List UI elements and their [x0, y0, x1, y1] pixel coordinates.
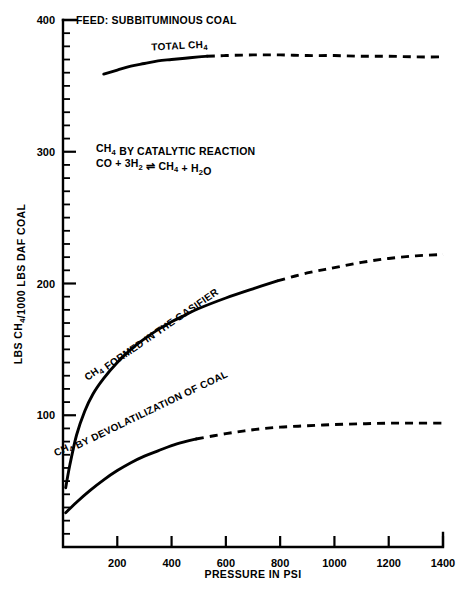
data-curves [66, 55, 443, 513]
curve-solid-3 [66, 439, 196, 513]
curve-labels: TOTAL CH4CH4 FORMED IN THE GASIFIERCH4 B… [52, 38, 229, 460]
catalytic-reaction-note-line2: CO + 3H2 ⇌ CH4 + H2O [96, 157, 212, 177]
x-tick-label: 400 [162, 557, 180, 569]
catalytic-reaction-note-line1: CH4 BY CATALYTIC REACTION [96, 142, 255, 157]
curve-label-3: CH4 BY DEVOLATILIZATION OF COAL [52, 366, 229, 461]
x-axis-title: PRESSURE IN PSI [204, 568, 301, 580]
y-axis-title: LBS CH4/1000 LBS DAF COAL [12, 203, 27, 364]
x-tick-label: 1200 [376, 557, 400, 569]
curve-dashed-3 [196, 423, 443, 439]
chart-svg: 100200300400200400600800100012001400 TOT… [0, 0, 469, 592]
y-tick-label: 400 [37, 14, 55, 26]
curve-dashed-2 [277, 255, 443, 281]
curve-label-1: TOTAL CH4 [151, 38, 208, 55]
feed-note: FEED: SUBBITUMINOUS COAL [76, 14, 237, 26]
curve-solid-1 [104, 56, 207, 74]
x-tick-label: 1000 [322, 557, 346, 569]
x-tick-label: 1400 [431, 557, 455, 569]
y-tick-label: 300 [37, 146, 55, 158]
curve-dashed-1 [207, 55, 443, 57]
y-tick-label: 200 [37, 278, 55, 290]
y-tick-label: 100 [37, 409, 55, 421]
x-tick-label: 200 [108, 557, 126, 569]
curve-solid-2 [66, 281, 278, 488]
chart-figure: 100200300400200400600800100012001400 TOT… [0, 0, 469, 592]
curve-label-2: CH4 FORMED IN THE GASIFIER [82, 284, 220, 385]
